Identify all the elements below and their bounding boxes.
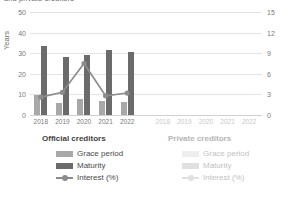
y-axis-left-tick: 20 (18, 70, 26, 77)
swatch-interest-line-icon (182, 175, 199, 181)
bar-group[interactable] (53, 12, 71, 115)
bar-maturity[interactable] (128, 52, 134, 115)
y-axis-right-tick: 6 (267, 70, 271, 77)
swatch-maturity-icon (56, 163, 73, 169)
legend-item-maturity-private[interactable]: Maturity (182, 161, 249, 170)
bar-groups-official (30, 12, 138, 115)
bar-grace-period[interactable] (34, 95, 40, 115)
legend-label-maturity: Maturity (203, 161, 231, 170)
legend-item-grace-period-official[interactable]: Grace period (56, 149, 123, 158)
legend-label-grace-period: Grace period (77, 149, 123, 158)
legend-title-private: Private creditors (168, 134, 249, 143)
x-axis-tick: 2020 (75, 118, 93, 125)
y-axis-right-tick: 12 (267, 29, 275, 36)
chart-figure: and private creditors Years Interest (%)… (0, 0, 294, 200)
x-axis-tick: 2021 (219, 118, 237, 125)
bar-grace-period[interactable] (99, 101, 105, 115)
swatch-interest-line-icon (56, 175, 73, 181)
legend-label-grace-period: Grace period (203, 149, 249, 158)
x-axis-tick: 2019 (53, 118, 71, 125)
swatch-grace-period-icon (56, 151, 73, 157)
legend-item-interest-private[interactable]: Interest (%) (182, 173, 249, 182)
y-axis-right-tick: 15 (267, 9, 275, 16)
legend-label-interest: Interest (%) (203, 173, 244, 182)
panel-private-creditors: 20182019202020212022 (152, 12, 260, 115)
bar-maturity[interactable] (63, 57, 69, 115)
bar-group[interactable] (75, 12, 93, 115)
x-axis-tick: 2019 (175, 118, 193, 125)
bar-group[interactable] (97, 12, 115, 115)
legend-item-interest-official[interactable]: Interest (%) (56, 173, 123, 182)
x-axis-ticks-private: 20182019202020212022 (152, 115, 260, 125)
chart-title: and private creditors (4, 0, 74, 3)
y-axis-left-tick: 50 (18, 9, 26, 16)
y-axis-left-tick: 40 (18, 29, 26, 36)
bar-group[interactable] (197, 12, 215, 115)
y-axis-right-tick: 0 (267, 112, 271, 119)
bar-group[interactable] (154, 12, 172, 115)
legends: Official creditors Grace period Maturity… (0, 134, 294, 200)
panel-official-creditors: 20182019202020212022 (30, 12, 138, 115)
bar-maturity[interactable] (41, 46, 47, 115)
x-axis-tick: 2021 (97, 118, 115, 125)
legend-label-interest: Interest (%) (77, 173, 118, 182)
plot-area: 01020304050 03691215 2018201920202021202… (30, 12, 262, 115)
legend-label-maturity: Maturity (77, 161, 105, 170)
swatch-grace-period-icon (182, 151, 199, 157)
swatch-maturity-icon (182, 163, 199, 169)
x-axis-tick: 2018 (154, 118, 172, 125)
bar-group[interactable] (219, 12, 237, 115)
bar-maturity[interactable] (84, 55, 90, 115)
bar-group[interactable] (32, 12, 50, 115)
bar-grace-period[interactable] (121, 102, 127, 115)
legend-private-creditors: Private creditors Grace period Maturity … (168, 134, 249, 185)
x-axis-ticks-official: 20182019202020212022 (30, 115, 138, 125)
bar-grace-period[interactable] (77, 99, 83, 115)
x-axis-tick: 2020 (197, 118, 215, 125)
bar-grace-period[interactable] (56, 103, 62, 115)
bar-group[interactable] (240, 12, 258, 115)
bar-maturity[interactable] (106, 50, 112, 115)
legend-official-creditors: Official creditors Grace period Maturity… (42, 134, 123, 185)
legend-item-grace-period-private[interactable]: Grace period (182, 149, 249, 158)
legend-title-official: Official creditors (42, 134, 123, 143)
y-axis-right-tick: 9 (267, 50, 271, 57)
y-axis-left-tick: 30 (18, 50, 26, 57)
legend-item-maturity-official[interactable]: Maturity (56, 161, 123, 170)
x-axis-tick: 2022 (118, 118, 136, 125)
y-axis-left-tick: 10 (18, 91, 26, 98)
x-axis-tick: 2022 (240, 118, 258, 125)
bar-groups-private (152, 12, 260, 115)
y-axis-right-tick: 3 (267, 91, 271, 98)
y-axis-left-label: Years (2, 31, 11, 50)
x-axis-tick: 2018 (32, 118, 50, 125)
bar-group[interactable] (175, 12, 193, 115)
y-axis-left-tick: 0 (22, 112, 26, 119)
bar-group[interactable] (118, 12, 136, 115)
